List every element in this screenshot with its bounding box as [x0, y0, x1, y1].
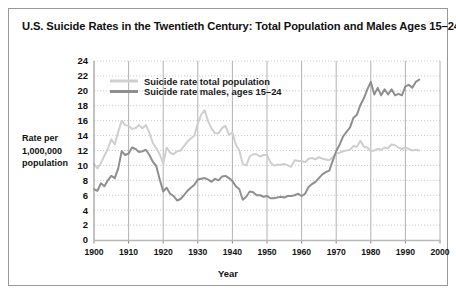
y-tick-label: 16 [77, 115, 88, 126]
x-tick-label: 1990 [396, 247, 415, 257]
x-tick-label: 1960 [292, 247, 311, 257]
x-tick-label: 1930 [188, 247, 207, 257]
y-tick-label: 8 [83, 175, 88, 186]
y-tick-label: 6 [83, 190, 88, 201]
x-axis-ticks: 1900191019201930194019501960197019801990… [84, 240, 449, 257]
x-tick-label: 1970 [327, 247, 346, 257]
y-tick-label: 10 [77, 160, 88, 171]
y-tick-label: 4 [83, 205, 89, 216]
chart-page: U.S. Suicide Rates in the Twentieth Cent… [0, 0, 456, 294]
y-tick-label: 18 [77, 100, 88, 111]
x-tick-label: 1910 [119, 247, 138, 257]
y-tick-label: 22 [77, 70, 88, 81]
legend-label-males-15-24: Suicide rate males, ages 15–24 [144, 86, 282, 97]
x-tick-label: 1920 [154, 247, 173, 257]
y-tick-label: 20 [77, 85, 88, 96]
y-axis-ticks: 024681012141618202224 [77, 55, 88, 245]
x-tick-label: 1950 [257, 247, 276, 257]
x-tick-label: 2000 [430, 247, 449, 257]
x-tick-label: 1940 [223, 247, 242, 257]
chart-legend: Suicide rate total populationSuicide rat… [110, 76, 282, 98]
y-tick-label: 14 [77, 130, 88, 141]
x-tick-label: 1980 [361, 247, 380, 257]
x-tick-label: 1900 [84, 247, 103, 257]
plot-area-wrapper: 024681012141618202224 190019101920193019… [0, 0, 456, 294]
y-tick-label: 0 [83, 234, 88, 245]
y-tick-label: 12 [77, 145, 88, 156]
line-chart-svg: 024681012141618202224 190019101920193019… [0, 0, 456, 294]
y-tick-label: 2 [83, 219, 88, 230]
y-tick-label: 24 [77, 55, 88, 66]
legend-label-total-population: Suicide rate total population [144, 76, 270, 87]
